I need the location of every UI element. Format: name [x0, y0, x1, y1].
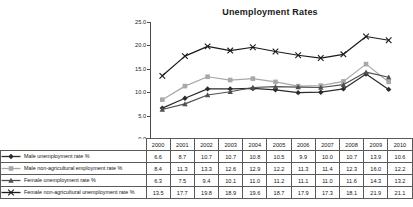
- table-cell-value: 11.1: [291, 175, 315, 187]
- legend-series-marker-icon: [1, 164, 21, 173]
- legend-label: Male unemployment rate %: [24, 153, 90, 160]
- plot-area: 0.05.010.015.020.025.0: [126, 22, 401, 144]
- y-axis-tick-mark: [147, 116, 150, 117]
- table-cell-value: 9.4: [194, 175, 218, 187]
- table-cell-value: 17.9: [291, 187, 315, 199]
- table-column-header-year: 2006: [291, 139, 315, 151]
- y-axis-tick-label: 5.0: [126, 113, 146, 119]
- table-column-header-year: 2009: [364, 139, 388, 151]
- table-cell-value: 13.5: [146, 187, 170, 199]
- table-column-header-year: 2005: [267, 139, 291, 151]
- table-cell-value: 11.2: [267, 175, 291, 187]
- y-axis-tick-mark: [147, 92, 150, 93]
- table-cell-value: 19.6: [243, 187, 267, 199]
- y-axis-labels: 0.05.010.015.020.025.0: [126, 22, 146, 144]
- table-cell-value: 21.1: [388, 187, 412, 199]
- series-canvas: [151, 22, 400, 139]
- table-cell-value: 12.2: [388, 163, 412, 175]
- y-axis-tick-label: 15.0: [126, 66, 146, 72]
- table-row: Female unemployment rate %6.37.59.410.11…: [1, 175, 413, 187]
- table-cell-value: 18.9: [219, 187, 243, 199]
- legend-series-marker-icon: [1, 188, 21, 197]
- table-cell-value: 6.6: [146, 151, 170, 163]
- table-cell-value: 14.3: [364, 175, 388, 187]
- table-cell-value: 13.9: [364, 151, 388, 163]
- table-cell-value: 10.8: [243, 151, 267, 163]
- y-axis-tick-label: 20.0: [126, 42, 146, 48]
- table-cell-value: 21.9: [364, 187, 388, 199]
- table-cell-value: 12.6: [219, 163, 243, 175]
- table-cell-value: 17.3: [315, 187, 339, 199]
- legend-series-marker-icon: [1, 152, 21, 161]
- y-axis-tick-label: 10.0: [126, 89, 146, 95]
- data-table: 2000200120022003200420052006200720082009…: [0, 138, 413, 199]
- table-column-header-year: 2004: [243, 139, 267, 151]
- legend-label: Female non-agricultural unemployment rat…: [24, 189, 135, 196]
- table-cell-value: 11.4: [315, 163, 339, 175]
- series-2: [160, 62, 391, 102]
- table-cell-value: 12.2: [267, 163, 291, 175]
- table-cell-value: 10.5: [267, 151, 291, 163]
- y-axis-tick-mark: [147, 45, 150, 46]
- table-cell-value: 13.2: [388, 175, 412, 187]
- table-column-header-year: 2010: [388, 139, 412, 151]
- legend-entry[interactable]: Male non-agricultural employment rate %: [1, 163, 147, 175]
- table-cell-value: 10.0: [315, 151, 339, 163]
- y-axis-tick-mark: [147, 22, 150, 23]
- table-cell-value: 18.1: [340, 187, 364, 199]
- table-cell-value: 12.9: [243, 163, 267, 175]
- table-cell-value: 19.8: [194, 187, 218, 199]
- table-cell-value: 10.6: [388, 151, 412, 163]
- table-row: Male non-agricultural employment rate %8…: [1, 163, 413, 175]
- table-cell-value: 12.3: [340, 163, 364, 175]
- table-cell-value: 18.7: [267, 187, 291, 199]
- table-cell-value: 9.9: [291, 151, 315, 163]
- legend-entry[interactable]: Female unemployment rate %: [1, 175, 147, 187]
- legend-label: Female unemployment rate %: [24, 177, 96, 184]
- data-table-wrap: 2000200120022003200420052006200720082009…: [0, 138, 401, 199]
- table-column-header-year: 2002: [194, 139, 218, 151]
- table-cell-value: 17.7: [170, 187, 194, 199]
- y-axis-tick-mark: [147, 69, 150, 70]
- table-column-header-year: 2000: [146, 139, 170, 151]
- chart-title: Unemployment Rates: [150, 7, 390, 17]
- legend-entry[interactable]: Female non-agricultural unemployment rat…: [1, 187, 147, 199]
- table-cell-value: 11.6: [340, 175, 364, 187]
- table-column-header-year: 2001: [170, 139, 194, 151]
- table-cell-value: 11.0: [315, 175, 339, 187]
- table-cell-value: 6.3: [146, 175, 170, 187]
- table-cell-value: 8.4: [146, 163, 170, 175]
- legend-label: Male non-agricultural employment rate %: [24, 165, 122, 172]
- table-column-header-year: 2007: [315, 139, 339, 151]
- table-cell-value: 8.7: [170, 151, 194, 163]
- table-corner-cell: [1, 139, 147, 151]
- table-header-row: 2000200120022003200420052006200720082009…: [1, 139, 413, 151]
- table-row: Male unemployment rate %6.68.710.710.710…: [1, 151, 413, 163]
- legend-entry[interactable]: Male unemployment rate %: [1, 151, 147, 163]
- table-row: Female non-agricultural unemployment rat…: [1, 187, 413, 199]
- series-svg: [151, 22, 400, 139]
- table-cell-value: 10.1: [219, 175, 243, 187]
- y-axis-tick-label: 25.0: [126, 19, 146, 25]
- legend-series-marker-icon: [1, 176, 21, 185]
- table-cell-value: 10.7: [219, 151, 243, 163]
- table-cell-value: 16.0: [364, 163, 388, 175]
- table-cell-value: 13.3: [194, 163, 218, 175]
- table-column-header-year: 2003: [219, 139, 243, 151]
- table-cell-value: 11.3: [291, 163, 315, 175]
- table-cell-value: 7.5: [170, 175, 194, 187]
- table-cell-value: 10.7: [340, 151, 364, 163]
- table-cell-value: 11.3: [170, 163, 194, 175]
- table-column-header-year: 2008: [340, 139, 364, 151]
- table-cell-value: 10.7: [194, 151, 218, 163]
- table-cell-value: 11.0: [243, 175, 267, 187]
